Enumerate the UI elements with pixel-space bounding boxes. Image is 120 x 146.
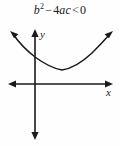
- figure-root: b2−4ac<0 y x: [0, 0, 120, 146]
- parabola-right-arrowhead: [105, 31, 113, 38]
- title-right-side: 0: [80, 3, 86, 17]
- title-relation-sign: <: [71, 3, 80, 17]
- parabola-left-arrowhead: [10, 31, 18, 38]
- x-axis: [8, 80, 113, 87]
- y-axis-bottom-arrowhead: [31, 132, 38, 140]
- y-axis-label: y: [40, 29, 45, 40]
- y-axis-top-arrowhead: [31, 29, 38, 37]
- parabola-path: [13, 34, 110, 70]
- plot-canvas: [0, 22, 120, 146]
- parabola-curve: [10, 31, 113, 70]
- title-expression: b2−4ac<0: [0, 2, 120, 18]
- title-minus-sign: −: [44, 3, 53, 17]
- x-axis-label: x: [106, 87, 111, 98]
- title-variables: ac: [59, 3, 71, 17]
- x-axis-left-arrowhead: [8, 80, 16, 87]
